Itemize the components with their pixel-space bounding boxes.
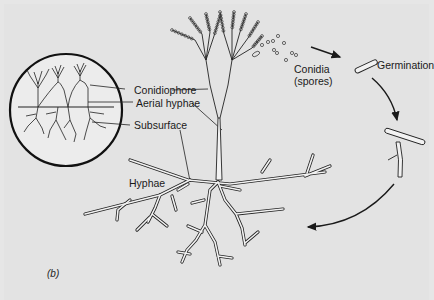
panel-label: (b) — [47, 268, 59, 279]
spore-chains — [171, 11, 264, 48]
label-hyphae: Hyphae — [129, 177, 165, 189]
label-conidia: Conidia — [294, 63, 330, 75]
label-germination: Germination — [377, 59, 434, 71]
label-spores: (spores) — [294, 75, 333, 87]
label-aerial-hyphae: Aerial hyphae — [136, 97, 200, 109]
label-subsurface: Subsurface — [134, 119, 187, 131]
germinating-spore — [354, 59, 425, 177]
inset-circle — [10, 54, 122, 166]
label-conidiophore: Conidiophore — [134, 84, 196, 96]
